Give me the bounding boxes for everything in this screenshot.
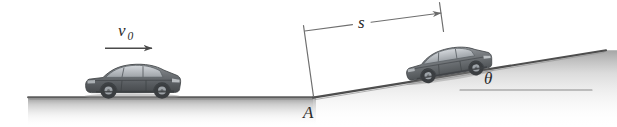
dimension-extension-line-right	[440, 3, 444, 32]
car-left-taillight	[88, 80, 96, 84]
distance-label: s	[358, 13, 365, 32]
dimension-line-right-segment	[371, 13, 441, 22]
car-left-wheel-rear	[100, 82, 116, 98]
velocity-label: v	[118, 21, 126, 40]
car-left-wheel-front	[154, 82, 170, 98]
velocity-label-subscript: 0	[128, 30, 134, 42]
dimension-extension-line-left	[304, 26, 314, 97]
point-a-label: A	[302, 103, 314, 122]
velocity-arrow-group: v 0	[105, 21, 152, 48]
dimension-line-left-segment	[305, 25, 353, 31]
angle-label: θ	[484, 69, 492, 88]
ground	[28, 97, 316, 127]
physics-figure: v 0 s A	[0, 0, 617, 127]
car-on-level-ground	[84, 64, 181, 99]
figure-canvas: v 0 s A	[0, 0, 617, 127]
ground-shading	[28, 98, 316, 127]
